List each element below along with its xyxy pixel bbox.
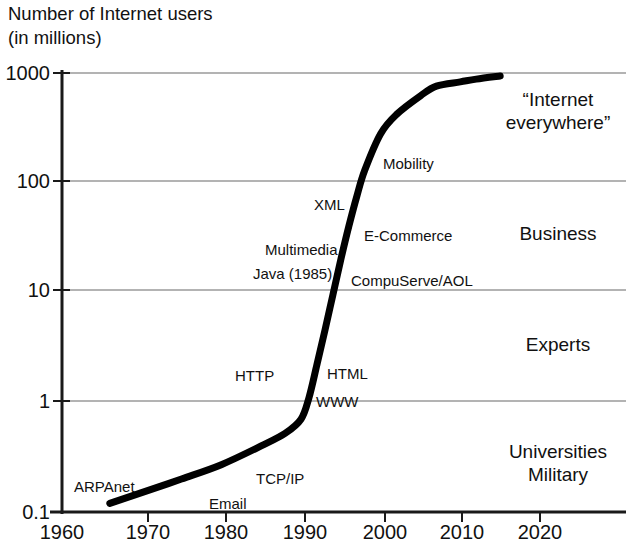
annotation-e-commerce: E-Commerce <box>364 227 452 245</box>
x-axis-label-1990: 1990 <box>265 521 345 544</box>
y-axis-label-1000: 1000 <box>0 62 50 85</box>
annotation-mobility: Mobility <box>383 155 434 173</box>
annotation-compuserve-aol: CompuServe/AOL <box>351 272 473 290</box>
annotation-java-1985: Java (1985) <box>253 265 332 283</box>
x-axis-label-2010: 2010 <box>422 521 502 544</box>
annotation-arpanet: ARPAnet <box>74 478 135 496</box>
annotation-http: HTTP <box>235 367 274 385</box>
y-axis-label-1: 1 <box>0 390 50 413</box>
annotation-html: HTML <box>327 365 368 383</box>
chart-figure: Number of Internet users (in millions) <box>0 0 626 552</box>
y-axis-label-10: 10 <box>0 279 50 302</box>
band-label-universities-military: Universities Military <box>496 440 620 486</box>
x-axis-label-1970: 1970 <box>108 521 188 544</box>
y-axis-label-100: 100 <box>0 170 50 193</box>
band-label-business-line-1: Business <box>496 222 620 245</box>
x-axis-label-1960: 1960 <box>22 521 102 544</box>
band-label-universities-military-line-1: Universities <box>496 440 620 463</box>
annotation-www: WWW <box>316 393 358 411</box>
annotation-tcp-ip: TCP/IP <box>256 470 304 488</box>
band-label-internet-everywhere-line-2: everywhere” <box>496 111 620 134</box>
band-label-internet-everywhere: “Internet everywhere” <box>496 88 620 134</box>
x-axis-label-2020: 2020 <box>500 521 580 544</box>
band-label-experts-line-1: Experts <box>496 333 620 356</box>
band-label-business: Business <box>496 222 620 245</box>
annotation-email: Email <box>209 495 247 513</box>
x-axis-label-2000: 2000 <box>345 521 425 544</box>
band-label-experts: Experts <box>496 333 620 356</box>
x-axis-label-1980: 1980 <box>186 521 266 544</box>
band-label-universities-military-line-2: Military <box>496 463 620 486</box>
annotation-multimedia: Multimedia <box>265 241 338 259</box>
annotation-xml: XML <box>314 196 345 214</box>
band-label-internet-everywhere-line-1: “Internet <box>496 88 620 111</box>
